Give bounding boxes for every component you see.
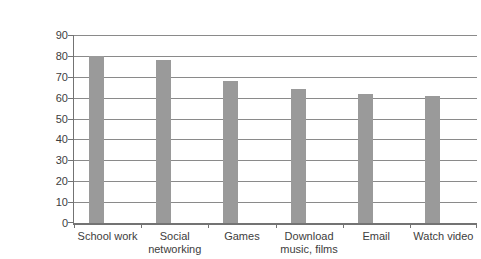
bar-watch-video	[425, 96, 440, 223]
plot-area: 0102030405060708090School workSocial net…	[73, 35, 477, 225]
y-tick-label-40: 40	[42, 133, 68, 145]
bar-email	[358, 94, 373, 224]
y-axis-tick-70	[68, 77, 73, 78]
x-axis-tick-1	[141, 223, 142, 228]
x-axis-tick-2	[208, 223, 209, 228]
bar-social-networking	[156, 60, 171, 223]
category-label-download-music-films: Download music, films	[276, 230, 343, 256]
gridline-20	[74, 181, 477, 182]
bar-school-work	[89, 56, 104, 223]
bar-chart: 0102030405060708090School workSocial net…	[40, 16, 481, 259]
category-label-email: Email	[343, 230, 410, 243]
y-tick-label-0: 0	[42, 217, 68, 229]
x-axis-tick-4	[343, 223, 344, 228]
bar-download-music-films	[291, 89, 306, 223]
category-label-school-work: School work	[74, 230, 141, 243]
y-axis-tick-80	[68, 56, 73, 57]
x-axis-tick-6	[476, 223, 477, 228]
gridline-60	[74, 98, 477, 99]
gridline-40	[74, 139, 477, 140]
y-axis-tick-60	[68, 98, 73, 99]
y-axis-tick-10	[68, 202, 73, 203]
gridline-70	[74, 77, 477, 78]
x-axis-tick-3	[276, 223, 277, 228]
y-axis-tick-20	[68, 181, 73, 182]
y-tick-label-90: 90	[42, 29, 68, 41]
y-tick-label-60: 60	[42, 92, 68, 104]
y-tick-label-10: 10	[42, 196, 68, 208]
category-label-watch-video: Watch video	[410, 230, 477, 243]
category-label-social-networking: Social networking	[141, 230, 208, 256]
y-tick-label-20: 20	[42, 175, 68, 187]
y-axis-tick-50	[68, 119, 73, 120]
category-label-games: Games	[208, 230, 275, 243]
bar-games	[223, 81, 238, 223]
gridline-50	[74, 119, 477, 120]
gridline-80	[74, 56, 477, 57]
y-tick-label-50: 50	[42, 113, 68, 125]
y-axis-tick-30	[68, 160, 73, 161]
gridline-10	[74, 202, 477, 203]
y-tick-label-30: 30	[42, 154, 68, 166]
x-axis-tick-5	[410, 223, 411, 228]
y-axis-tick-40	[68, 139, 73, 140]
y-tick-label-80: 80	[42, 50, 68, 62]
gridline-90	[74, 35, 477, 36]
x-axis-tick-0	[74, 223, 75, 228]
gridline-30	[74, 160, 477, 161]
y-tick-label-70: 70	[42, 71, 68, 83]
y-axis-tick-90	[68, 35, 73, 36]
y-axis-tick-0	[68, 222, 73, 223]
